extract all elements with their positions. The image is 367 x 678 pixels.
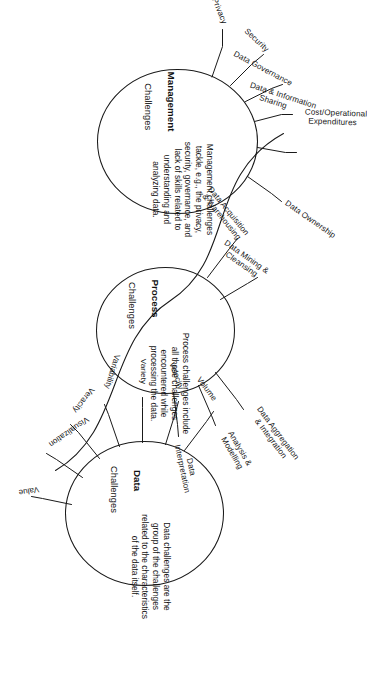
branch-label-cost-operational-expenditures: Cost/Operational Expenditures bbox=[304, 107, 361, 127]
management-title-bold: Management bbox=[165, 71, 177, 131]
process-title-bold: Process bbox=[149, 271, 161, 325]
data-title-rest: Challenges bbox=[108, 465, 119, 512]
node-title-process: Process Challenges bbox=[115, 271, 183, 325]
process-title-rest: Challenges bbox=[126, 281, 137, 328]
node-title-management: Management Challenges bbox=[131, 71, 199, 131]
node-title-data: Data Challenges bbox=[97, 455, 165, 505]
management-title-rest: Challenges bbox=[142, 83, 153, 130]
management-branches bbox=[212, 29, 297, 201]
branch-label-variety: Variety bbox=[138, 350, 147, 392]
data-title-bold: Data bbox=[131, 455, 143, 505]
node-body-data: Data challenges are the group of the cha… bbox=[128, 498, 171, 634]
